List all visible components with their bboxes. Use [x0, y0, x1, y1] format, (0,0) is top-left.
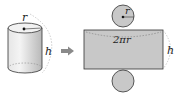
cylinder-body [8, 28, 42, 73]
net-bottom-circle [112, 70, 134, 92]
cylinder-net-diagram: r h r 2πr h [0, 0, 180, 98]
cylinder: r h [8, 11, 52, 73]
cylinder-net: r 2πr h [84, 5, 174, 92]
right-arrow-icon [61, 47, 74, 56]
net-width-label: 2πr [112, 34, 132, 45]
cylinder-radius-label: r [22, 11, 28, 24]
cylinder-height-label: h [45, 45, 52, 58]
net-height-label: h [167, 44, 174, 57]
